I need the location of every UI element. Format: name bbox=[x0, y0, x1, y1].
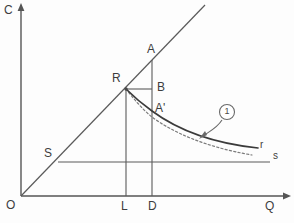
ray-through-origin bbox=[21, 5, 205, 196]
point-marker-R bbox=[124, 87, 127, 90]
callout-number-label: 1 bbox=[225, 107, 230, 116]
figure-container: C Q O A B A' R S L D r s 1 bbox=[0, 0, 294, 223]
x-axis-arrowhead-icon bbox=[283, 193, 291, 200]
y-axis-arrowhead-icon bbox=[18, 3, 25, 11]
point-label-b: B bbox=[157, 81, 165, 93]
y-axis-label: C bbox=[4, 4, 13, 16]
x-axis-label: Q bbox=[265, 200, 274, 212]
curve-label-r: r bbox=[260, 140, 263, 150]
point-label-r: R bbox=[112, 72, 121, 84]
axis-tick-label-d: D bbox=[148, 200, 157, 212]
curve-label-s: s bbox=[273, 151, 278, 161]
diagram-canvas bbox=[0, 0, 294, 223]
point-label-a: A bbox=[147, 43, 155, 55]
point-label-s: S bbox=[44, 147, 52, 159]
point-label-a-prime: A' bbox=[155, 102, 165, 114]
axis-tick-label-l: L bbox=[121, 200, 128, 212]
origin-label: O bbox=[6, 199, 15, 211]
